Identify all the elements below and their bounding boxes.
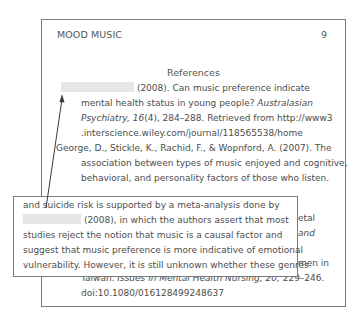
- excerpt-text: suggest that music preference is more in…: [23, 245, 303, 255]
- references-heading: References: [42, 67, 345, 78]
- journal-title: Psychiatry, 16: [81, 113, 144, 123]
- reference-1-line-1: (2008). Can music preference indicate: [61, 82, 310, 94]
- text-excerpt-callout: and suicide risk is supported by a meta-…: [13, 196, 298, 277]
- reference-text: mental health status in young people?: [81, 98, 257, 108]
- reference-text: association between types of music enjoy…: [81, 158, 348, 168]
- excerpt-text: and suicide risk is supported by a meta-…: [23, 200, 279, 210]
- reference-1-line-4: .interscience.wiley.com/journal/11856553…: [81, 127, 303, 139]
- reference-text: behavioral, and personality factors of t…: [81, 173, 329, 183]
- reference-2-line-1: George, D., Stickle, K., Rachid, F., & W…: [56, 142, 332, 154]
- excerpt-text: studies reject the notion that music is …: [23, 230, 283, 240]
- reference-3-line-2: doi:10.1080/016128499248637: [81, 287, 224, 299]
- redacted-author: [61, 82, 134, 92]
- reference-text: George, D., Stickle, K., Rachid, F., & W…: [56, 143, 332, 153]
- reference-doi: doi:10.1080/016128499248637: [81, 288, 224, 298]
- reference-1-line-2: mental health status in young people? Au…: [81, 97, 313, 109]
- reference-url: .interscience.wiley.com/journal/11856553…: [81, 128, 303, 138]
- reference-2-line-3: behavioral, and personality factors of t…: [81, 172, 329, 184]
- journal-title: Australasian: [257, 98, 313, 108]
- reference-text: and: [298, 228, 315, 238]
- reference-text: etal: [298, 213, 315, 223]
- excerpt-line-5: vulnerability. However, it is still unkn…: [23, 259, 309, 271]
- excerpt-text: vulnerability. However, it is still unkn…: [23, 260, 309, 270]
- running-head: MOOD MUSIC: [57, 29, 122, 40]
- excerpt-line-2: (2008), in which the authors assert that…: [23, 214, 289, 226]
- excerpt-line-4: suggest that music preference is more in…: [23, 244, 303, 256]
- excerpt-text: (2008), in which the authors assert that…: [84, 215, 289, 225]
- reference-1-line-3: Psychiatry, 16(4), 284–288. Retrieved fr…: [81, 112, 332, 124]
- page-number: 9: [321, 29, 327, 40]
- reference-text: (2008). Can music preference indicate: [137, 83, 310, 93]
- excerpt-line-3: studies reject the notion that music is …: [23, 229, 283, 241]
- reference-text: (4), 284–288. Retrieved from http://www3: [144, 113, 332, 123]
- excerpt-line-1: and suicide risk is supported by a meta-…: [23, 199, 279, 211]
- reference-2-line-2: association between types of music enjoy…: [81, 157, 348, 169]
- redacted-citation: [23, 214, 81, 224]
- hidden-fragment-2: and: [298, 227, 315, 239]
- hidden-fragment-1: etal: [298, 212, 315, 224]
